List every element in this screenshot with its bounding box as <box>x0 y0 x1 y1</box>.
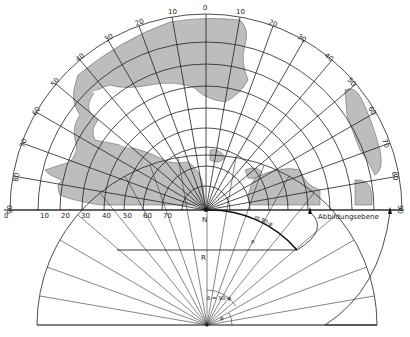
meridian-label: 10 <box>168 8 177 16</box>
pole-label: N <box>202 216 207 224</box>
axis-label: 70 <box>163 212 172 220</box>
meridian-label: 90 <box>396 205 404 214</box>
meridian-label: 20 <box>134 17 145 28</box>
meridian-label: 40 <box>323 51 335 63</box>
radius-label: R <box>201 254 206 262</box>
projection-diagram: N Abbildungsebene R m 90-φ ρ δ = 90-φ φ … <box>0 0 410 337</box>
axis-label: 50 <box>123 212 132 220</box>
rho-label: ρ <box>251 238 255 245</box>
meridian-label: 0 <box>203 4 207 12</box>
plane-label: Abbildungsebene <box>318 213 379 221</box>
axis-label: 60 <box>143 212 152 220</box>
axis-label: 40 <box>102 212 111 220</box>
meridian-label: 70 <box>18 138 29 149</box>
meridian-label: 10 <box>236 8 245 16</box>
angle-label-lower: φ <box>220 315 224 322</box>
meridian-label: 60 <box>31 105 42 117</box>
angle-label-upper: δ = 90-φ <box>207 295 231 302</box>
axis-label: 30 <box>81 212 90 220</box>
meridian-label: 90 <box>6 205 14 214</box>
arc-label: m 90-φ <box>253 213 274 228</box>
meridian-label: 80 <box>12 172 21 182</box>
meridian-label: 80 <box>390 171 399 181</box>
meridian-label: 40 <box>74 52 86 64</box>
axis-label: 10 <box>40 212 49 220</box>
meridian-label: 30 <box>296 33 308 44</box>
land-masses <box>45 18 381 205</box>
meridian-label: 50 <box>345 76 357 88</box>
axis-label: 20 <box>61 212 70 220</box>
meridian-label: 70 <box>380 138 391 149</box>
